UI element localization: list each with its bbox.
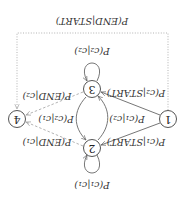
edge-c2-self-loop <box>84 63 99 81</box>
node-start: 1 <box>160 111 177 128</box>
node-label: 4 <box>14 113 21 126</box>
node-end: 4 <box>9 111 26 128</box>
label-start-to-c2: P(c₂|START) <box>106 87 166 99</box>
label-c1-to-end: P(END|c₁) <box>22 136 72 148</box>
node-c1: 2 <box>84 140 101 157</box>
label-c1-to-c2: P(c₁|c₂) <box>109 113 146 125</box>
edge-c1-to-c2 <box>98 96 108 140</box>
label-c2-self-loop: P(c₂|c₂) <box>74 45 111 57</box>
label-c2-to-end: P(END|c₂) <box>22 90 72 102</box>
node-c2: 3 <box>84 81 101 98</box>
edge-c2-to-c1 <box>76 97 86 140</box>
node-label: 1 <box>165 113 172 126</box>
label-c1-self-loop: P(c₁|c₁) <box>74 179 111 191</box>
hmm-state-diagram: 1 2 3 4 P(c₁|START) P(c₂|START) P(c₁|c₂)… <box>0 0 183 201</box>
label-c2-to-c1: P(c₂|c₁) <box>38 113 75 125</box>
node-label: 2 <box>89 142 96 155</box>
label-start-to-c1: P(c₁|START) <box>106 136 166 148</box>
edge-c1-self-loop <box>84 155 99 173</box>
label-start-to-end: P(END|START) <box>56 15 130 27</box>
node-label: 3 <box>89 83 96 96</box>
